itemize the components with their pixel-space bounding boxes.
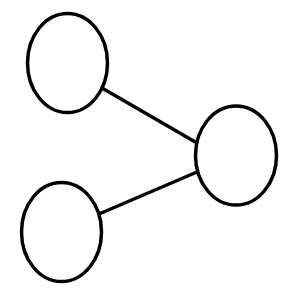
nodes-group bbox=[22, 14, 277, 282]
node-right bbox=[196, 106, 277, 205]
edge-top-left-right bbox=[102, 88, 197, 143]
graph-svg bbox=[0, 0, 292, 302]
node-bottom-left bbox=[22, 183, 102, 282]
diagram-canvas bbox=[0, 0, 292, 302]
node-top-left bbox=[28, 14, 108, 113]
edges-group bbox=[99, 88, 197, 214]
edge-bottom-left-right bbox=[99, 172, 197, 214]
